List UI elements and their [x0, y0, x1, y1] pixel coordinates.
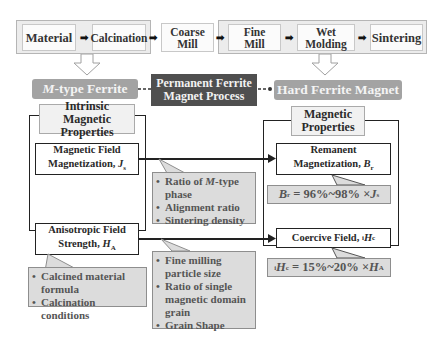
prop-text: Magnetization,	[48, 158, 118, 169]
title-line2: Properties	[60, 126, 113, 139]
note-item: Ratio of single magnetic domain grain	[165, 280, 252, 319]
symbol: H	[102, 238, 110, 249]
prop-line2: Magnetization, Br	[293, 157, 373, 175]
node-label: -type Ferrite	[54, 81, 127, 97]
coercive-formula: iHc = 15%~20% ×HA	[267, 258, 391, 277]
prop-line2: Magnetization, Js	[48, 157, 126, 175]
note-item: Grain Shape	[165, 319, 252, 332]
title-line2: Properties	[301, 121, 354, 134]
subscript: s	[123, 164, 126, 172]
step-calcination: Calcination	[92, 24, 146, 51]
prop-line1: Magnetic Field	[53, 143, 120, 157]
arrow-right-icon: ➡	[214, 28, 226, 46]
note-item: Calcined material formula	[41, 270, 143, 296]
step-label: Sintering	[372, 32, 421, 44]
step-material: Material	[22, 24, 76, 51]
symbol: H	[276, 260, 286, 275]
remanence-factors-note: Ratio of M-type phase Alignment ratio Si…	[152, 172, 256, 224]
process-title-line2: Magnet Process	[164, 90, 245, 103]
process-title-box: Permanent Ferrite Magnet Process	[151, 74, 257, 106]
prop-text: Strength,	[58, 238, 102, 249]
step-label: Coarse Mill	[168, 26, 208, 50]
dashed-connector	[138, 87, 152, 91]
down-arrow-icon	[72, 54, 102, 76]
symbol: H	[369, 260, 379, 275]
hard-ferrite-magnet-node: Hard Ferrite Magnet	[274, 80, 402, 100]
prop-text: Magnetization,	[293, 158, 363, 169]
symbol: B	[279, 187, 287, 202]
remanence-box: Remanent Magnetization, Br	[276, 143, 391, 175]
step-fine-mill: Fine Mill	[228, 24, 281, 51]
prop-text: Coercive Field,	[292, 231, 362, 245]
prop-line1: Remanent	[310, 143, 356, 157]
step-label: Material	[26, 32, 73, 44]
symbol: H	[364, 231, 372, 245]
step-label: Fine Mill	[240, 26, 270, 50]
magnetic-properties-title: Magnetic Properties	[291, 106, 365, 136]
note-item: Fine milling particle size	[165, 254, 252, 280]
magnetization-box: Magnetic Field Magnetization, Js	[35, 143, 139, 175]
node-label: Hard Ferrite Magnet	[277, 82, 399, 98]
down-arrow-icon	[310, 54, 340, 76]
step-label: Calcination	[91, 32, 148, 44]
remanence-formula: Br = 96%~98% ×Js	[267, 185, 391, 204]
title-line1: Intrinsic Magnetic	[40, 100, 134, 126]
callout-tail	[158, 238, 198, 252]
anisotropy-box: Anisotropic Field Strength, HA	[35, 223, 139, 255]
arrow-right-icon: ➡	[282, 28, 296, 46]
dashed-arrow-connector	[258, 85, 274, 93]
note-item: Calcination conditions	[41, 296, 143, 322]
subscript: s	[377, 191, 380, 199]
coercivity-factors-note: Fine milling particle size Ratio of sing…	[152, 251, 256, 329]
note-item: Alignment ratio	[165, 201, 252, 214]
anisotropy-factors-note: Calcined material formula Calcination co…	[28, 267, 147, 307]
step-coarse-mill: Coarse Mill	[161, 23, 214, 52]
prop-line1: Anisotropic Field	[48, 223, 126, 237]
coercive-box: Coercive Field, iHc	[276, 228, 391, 248]
formula-text: = 96%~98% ×	[290, 187, 370, 202]
arrow-right-icon: ➡	[146, 28, 160, 46]
m-type-ferrite-node: M-type Ferrite	[32, 79, 138, 99]
arrow-right-icon: ➡	[355, 28, 369, 46]
note-item: Ratio of M-type phase	[165, 175, 252, 201]
note-item: Sintering density	[165, 214, 252, 227]
subscript: A	[111, 244, 116, 252]
subscript: A	[379, 264, 384, 272]
formula-text: = 15%~20% ×	[289, 260, 369, 275]
intrinsic-properties-title: Intrinsic Magnetic Properties	[39, 104, 135, 134]
italic-m: M	[42, 81, 54, 97]
step-wet-molding: Wet Molding	[297, 24, 355, 51]
step-sintering: Sintering	[370, 24, 423, 51]
step-label: Wet Molding	[304, 26, 349, 50]
subscript: c	[372, 231, 375, 245]
subscript: r	[370, 164, 373, 172]
